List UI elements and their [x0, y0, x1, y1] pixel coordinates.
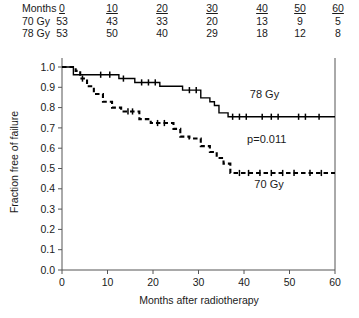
censor-marks [82, 72, 321, 176]
risk-table-row-78gy: 78 Gy 53 50 40 29 18 12 8 [0, 27, 359, 40]
survival-curves [62, 67, 335, 173]
risk-row-label-70gy: 70 Gy [22, 15, 50, 28]
risk-value-78gy-10: 50 [101, 27, 123, 40]
y-tick-label: 0.9 [40, 81, 55, 93]
y-tick-label: 0.5 [40, 162, 55, 174]
risk-table-header-10: 10 [101, 2, 123, 15]
x-tick-label: 30 [193, 276, 205, 288]
x-tick-label: 40 [238, 276, 250, 288]
risk-value-70gy-0: 53 [51, 15, 73, 28]
risk-value-78gy-0: 53 [51, 27, 73, 40]
risk-table-header-50: 50 [289, 2, 311, 15]
curve-annotations: 78 Gyp=0.01170 Gy [247, 88, 286, 189]
numbers-at-risk-table: Months 0 10 20 30 40 50 60 70 Gy 53 43 3… [0, 2, 359, 40]
risk-value-70gy-20: 33 [151, 15, 173, 28]
risk-table-header-20: 20 [151, 2, 173, 15]
x-tick-label: 50 [284, 276, 296, 288]
y-tick-label: 0.4 [40, 182, 55, 194]
risk-table-header-0: 0 [51, 2, 73, 15]
risk-value-78gy-20: 40 [151, 27, 173, 40]
x-tick-label: 20 [147, 276, 159, 288]
annotation-70gy: 70 Gy [254, 178, 284, 190]
risk-value-70gy-40: 13 [251, 15, 273, 28]
risk-value-70gy-50: 9 [289, 15, 311, 28]
risk-value-70gy-30: 20 [201, 15, 223, 28]
risk-value-70gy-60: 5 [327, 15, 349, 28]
y-tick-label: 1.0 [40, 61, 55, 73]
risk-value-78gy-50: 12 [289, 27, 311, 40]
kaplan-meier-plot: 0.00.10.20.30.40.50.60.70.80.91.0 010203… [0, 46, 359, 318]
x-tick-label: 10 [102, 276, 114, 288]
y-tick-label: 0.3 [40, 203, 55, 215]
x-axis-title: Months after radiotherapy [139, 294, 259, 306]
risk-value-78gy-40: 18 [251, 27, 273, 40]
curve-78gy [62, 67, 335, 117]
y-tick-label: 0.0 [40, 264, 55, 276]
risk-table-header-30: 30 [201, 2, 223, 15]
risk-value-78gy-60: 8 [327, 27, 349, 40]
risk-table-header-60: 60 [327, 2, 349, 15]
curve-70gy [62, 67, 335, 173]
y-tick-label: 0.8 [40, 101, 55, 113]
y-tick-label: 0.2 [40, 223, 55, 235]
risk-row-label-78gy: 78 Gy [22, 27, 50, 40]
risk-table-header-40: 40 [251, 2, 273, 15]
risk-value-78gy-30: 29 [201, 27, 223, 40]
x-tick-label: 60 [329, 276, 341, 288]
y-tick-label: 0.6 [40, 142, 55, 154]
annotation-78gy: 78 Gy [250, 88, 280, 100]
x-tick-label: 0 [59, 276, 65, 288]
risk-table-header-row: Months 0 10 20 30 40 50 60 [0, 2, 359, 15]
survival-chart: 0.00.10.20.30.40.50.60.70.80.91.0 010203… [0, 46, 359, 318]
y-tick-label: 0.1 [40, 243, 55, 255]
x-axis-ticks: 0102030405060 [59, 270, 341, 288]
y-axis-title: Fraction free of failure [8, 111, 20, 213]
y-tick-label: 0.7 [40, 122, 55, 134]
y-axis-ticks: 0.00.10.20.30.40.50.60.70.80.91.0 [40, 61, 62, 276]
risk-value-70gy-10: 43 [101, 15, 123, 28]
annotation-p0011: p=0.011 [247, 133, 286, 145]
risk-table-row-70gy: 70 Gy 53 43 33 20 13 9 5 [0, 15, 359, 28]
